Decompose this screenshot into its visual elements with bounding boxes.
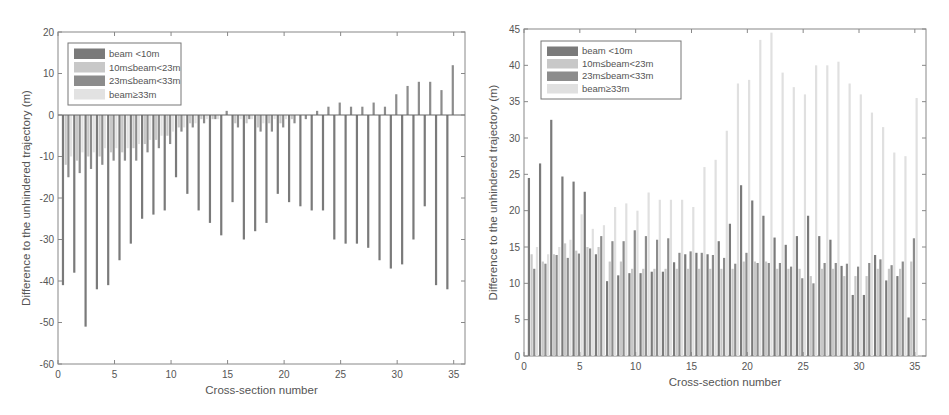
bar-23m-beam-33m — [169, 115, 171, 144]
bar-23m-beam-33m — [812, 283, 814, 356]
bar-23m-beam-33m — [124, 115, 126, 161]
bar-beam-10m — [198, 115, 200, 210]
bar-23m-beam-33m — [678, 253, 680, 356]
bar-23m-beam-33m — [578, 254, 580, 356]
bar-beam-10m — [390, 115, 392, 269]
bar-23m-beam-33m — [589, 248, 591, 356]
bar-beam-33m — [893, 153, 895, 356]
bar-beam-10m — [356, 115, 358, 244]
x-axis-label: Cross-section number — [669, 376, 782, 388]
bar-10m-beam-23m — [743, 262, 745, 356]
bar-10m-beam-23m — [234, 115, 236, 123]
bar-beam-33m — [93, 115, 95, 152]
x-tick-label: 10 — [630, 361, 642, 372]
bar-beam-33m — [285, 115, 287, 119]
x-tick-label: 35 — [448, 369, 460, 380]
bar-23m-beam-33m — [913, 238, 915, 356]
bar-10m-beam-23m — [99, 115, 101, 157]
bar-beam-10m — [907, 317, 909, 356]
legend-label: 23m≤beam<33m — [109, 75, 181, 86]
bar-10m-beam-23m — [268, 115, 270, 123]
x-tick-label: 20 — [279, 369, 291, 380]
x-tick-label: 25 — [335, 369, 347, 380]
y-tick-label: 10 — [509, 278, 521, 289]
bar-10m-beam-23m — [899, 269, 901, 356]
y-axis-label: Difference to the unhindered trajectory … — [20, 90, 32, 306]
bar-beam-10m — [73, 115, 75, 273]
bar-beam-33m — [274, 115, 276, 119]
bar-23m-beam-33m — [824, 263, 826, 356]
bar-beam-33m — [916, 98, 918, 356]
bar-beam-10m — [333, 115, 335, 240]
bar-beam-10m — [231, 115, 233, 202]
x-tick-label: 5 — [112, 369, 118, 380]
bar-10m-beam-23m — [76, 115, 78, 161]
bar-10m-beam-23m — [166, 115, 168, 136]
bar-10m-beam-23m — [787, 269, 789, 356]
bar-beam-33m — [726, 131, 728, 356]
bar-beam-10m — [322, 115, 324, 210]
bar-beam-10m — [863, 295, 865, 356]
bar-beam-33m — [138, 115, 140, 144]
bar-beam-10m — [617, 275, 619, 356]
bar-23m-beam-33m — [373, 103, 375, 115]
bar-23m-beam-33m — [634, 230, 636, 356]
bar-beam-33m — [849, 84, 851, 357]
bar-beam-33m — [793, 87, 795, 356]
bar-10m-beam-23m — [620, 262, 622, 356]
bar-23m-beam-33m — [745, 253, 747, 356]
bar-23m-beam-33m — [452, 65, 454, 115]
bar-beam-10m — [595, 254, 597, 356]
bar-23m-beam-33m — [158, 115, 160, 148]
bar-beam-33m — [815, 65, 817, 356]
bar-10m-beam-23m — [200, 115, 202, 119]
bar-beam-10m — [130, 115, 132, 244]
bar-23m-beam-33m — [180, 115, 182, 132]
bar-beam-33m — [659, 200, 661, 356]
bar-23m-beam-33m — [418, 82, 420, 115]
bar-23m-beam-33m — [567, 258, 569, 356]
bar-beam-10m — [662, 272, 664, 356]
bar-beam-33m — [183, 115, 185, 127]
bar-beam-33m — [81, 115, 83, 152]
y-tick-label: -40 — [40, 276, 55, 287]
legend-label: 10m≤beam<23m — [582, 58, 654, 69]
legend-swatch — [74, 62, 105, 73]
bar-23m-beam-33m — [146, 115, 148, 152]
bar-beam-10m — [345, 115, 347, 244]
bar-beam-33m — [194, 115, 196, 123]
bar-23m-beam-33m — [101, 115, 103, 165]
x-tick-label: 20 — [742, 361, 754, 372]
bar-23m-beam-33m — [406, 86, 408, 115]
bar-23m-beam-33m — [384, 107, 386, 115]
bar-beam-33m — [804, 94, 806, 356]
bar-10m-beam-23m — [888, 269, 890, 356]
bar-beam-10m — [118, 115, 120, 260]
y-tick-label: 0 — [48, 110, 54, 121]
bar-beam-10m — [852, 295, 854, 356]
bar-beam-33m — [547, 254, 549, 356]
bar-23m-beam-33m — [902, 262, 904, 356]
legend-swatch — [547, 59, 578, 69]
bar-beam-33m — [217, 115, 219, 119]
bar-beam-33m — [904, 156, 906, 356]
bar-23m-beam-33m — [623, 241, 625, 356]
bar-beam-10m — [796, 236, 798, 356]
bar-10m-beam-23m — [132, 115, 134, 148]
x-tick-label: 10 — [165, 369, 177, 380]
bar-10m-beam-23m — [110, 115, 112, 152]
y-tick-label: -50 — [40, 317, 55, 328]
y-tick-label: 45 — [509, 24, 521, 35]
bar-beam-10m — [651, 272, 653, 356]
bar-10m-beam-23m — [731, 269, 733, 356]
bar-beam-10m — [378, 115, 380, 260]
y-axis-label: Difference to the unhindered trajectory … — [487, 84, 499, 300]
bar-23m-beam-33m — [395, 94, 397, 115]
bar-10m-beam-23m — [212, 115, 214, 119]
bar-beam-10m — [175, 115, 177, 177]
bar-23m-beam-33m — [192, 115, 194, 127]
bar-23m-beam-33m — [656, 240, 658, 356]
bar-10m-beam-23m — [877, 269, 879, 356]
bar-beam-33m — [670, 200, 672, 356]
bar-10m-beam-23m — [245, 115, 247, 123]
